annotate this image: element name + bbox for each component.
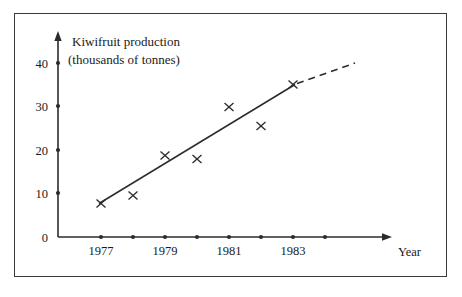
- x-tick-1979: [163, 235, 167, 239]
- x-tick-1983: [291, 235, 295, 239]
- x-axis: [58, 233, 392, 240]
- x-tick-1977: [99, 235, 103, 239]
- x-axis-name: Year: [398, 245, 422, 259]
- y-tick-40: [56, 61, 60, 65]
- chart-plot-area: 40 30 20 10 0 1977 1979 1981 1983 Year K…: [0, 0, 462, 297]
- y-axis-label-0: 0: [42, 231, 48, 245]
- x-tick-1980: [195, 235, 199, 239]
- data-point-1979: [161, 152, 170, 160]
- data-point-1978: [129, 192, 138, 200]
- x-axis-label-1977: 1977: [89, 244, 114, 258]
- chart-title-line-2: (thousands of tonnes): [68, 52, 180, 67]
- x-tick-1978: [131, 235, 135, 239]
- y-axis-arrow-icon: [54, 31, 61, 41]
- x-tick-1984: [323, 235, 327, 239]
- y-axis-label-30: 30: [36, 100, 49, 114]
- trend-line-solid: [99, 85, 295, 204]
- y-tick-10: [56, 191, 60, 195]
- data-point-1977: [97, 200, 106, 208]
- y-axis-label-20: 20: [36, 144, 49, 158]
- figure-container: 40 30 20 10 0 1977 1979 1981 1983 Year K…: [0, 0, 462, 297]
- chart-title-line-1: Kiwifruit production: [72, 34, 180, 49]
- x-axis-arrow-icon: [382, 233, 392, 240]
- y-tick-20: [56, 148, 60, 152]
- x-axis-label-1979: 1979: [153, 244, 178, 258]
- data-point-1983: [289, 81, 298, 89]
- data-point-1980: [193, 155, 202, 163]
- y-axis-label-10: 10: [36, 187, 49, 201]
- y-tick-30: [56, 104, 60, 108]
- y-axis-label-40: 40: [36, 57, 49, 71]
- data-point-1982: [257, 122, 266, 130]
- x-tick-1982: [259, 235, 263, 239]
- trend-line-dashed-extension: [297, 63, 355, 84]
- x-tick-1981: [227, 235, 231, 239]
- x-axis-label-1983: 1983: [281, 244, 306, 258]
- data-point-1981: [225, 103, 234, 111]
- x-axis-label-1981: 1981: [217, 244, 242, 258]
